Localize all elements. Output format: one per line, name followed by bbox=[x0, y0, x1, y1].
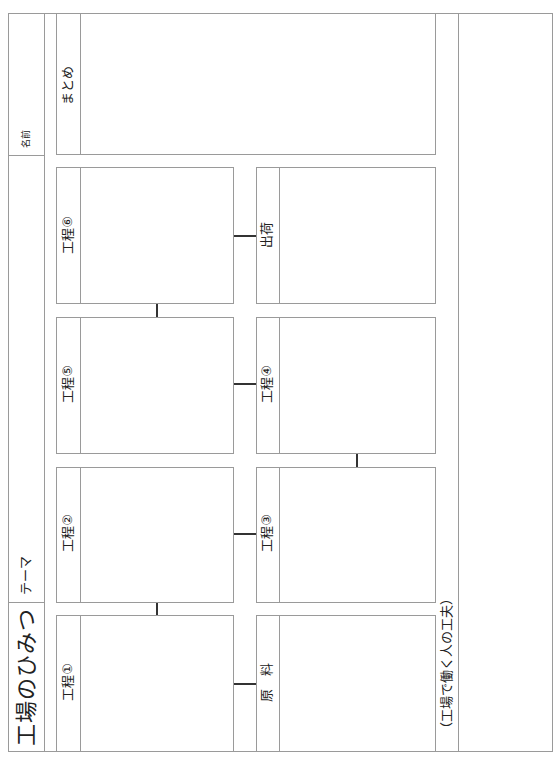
page-title: 工場のひみつ bbox=[12, 602, 42, 752]
process-5-box[interactable] bbox=[56, 317, 234, 454]
worker-ingenuity-label: （工場で働く人の工夫） bbox=[437, 563, 457, 759]
connector-p4-to-p5 bbox=[234, 383, 256, 385]
process-2-label-divider bbox=[80, 467, 81, 603]
theme-input[interactable] bbox=[44, 155, 45, 602]
process-2-label: 工程② bbox=[58, 498, 78, 568]
connector-raw-to-p1 bbox=[234, 683, 256, 685]
process-5-label: 工程⑤ bbox=[58, 349, 78, 419]
connector-p3-to-p4 bbox=[356, 454, 358, 467]
raw-material-label: 原 料 bbox=[257, 647, 277, 717]
process-6-label-divider bbox=[80, 167, 81, 304]
shipping-box[interactable] bbox=[256, 167, 436, 304]
process-3-box[interactable] bbox=[256, 467, 436, 603]
process-1-label-divider bbox=[80, 615, 81, 752]
name-label: 名前 bbox=[19, 119, 33, 159]
process-1-label: 工程① bbox=[58, 647, 78, 717]
shipping-label: 出荷 bbox=[257, 200, 277, 270]
process-5-label-divider bbox=[80, 317, 81, 454]
process-6-box[interactable] bbox=[56, 167, 234, 304]
summary-label-divider bbox=[80, 13, 81, 155]
summary-label: まとめ bbox=[58, 50, 78, 120]
summary-box[interactable] bbox=[56, 13, 436, 155]
connector-p2-to-p3 bbox=[234, 533, 256, 535]
process-3-label: 工程③ bbox=[257, 498, 277, 568]
process-1-box[interactable] bbox=[56, 615, 234, 752]
connector-p5-to-p6 bbox=[156, 304, 158, 317]
shipping-label-divider bbox=[279, 167, 280, 304]
process-4-box[interactable] bbox=[256, 317, 436, 454]
process-6-label: 工程⑥ bbox=[58, 200, 78, 270]
process-4-label: 工程④ bbox=[257, 349, 277, 419]
connector-p6-to-ship bbox=[234, 235, 256, 237]
raw-material-label-divider bbox=[279, 615, 280, 752]
theme-label: テーマ bbox=[17, 545, 35, 605]
process-2-box[interactable] bbox=[56, 467, 234, 603]
worker-ingenuity-box[interactable] bbox=[458, 13, 553, 752]
process-4-label-divider bbox=[279, 317, 280, 454]
process-3-label-divider bbox=[279, 467, 280, 603]
connector-p1-to-p2 bbox=[156, 603, 158, 615]
raw-material-box[interactable] bbox=[256, 615, 436, 752]
